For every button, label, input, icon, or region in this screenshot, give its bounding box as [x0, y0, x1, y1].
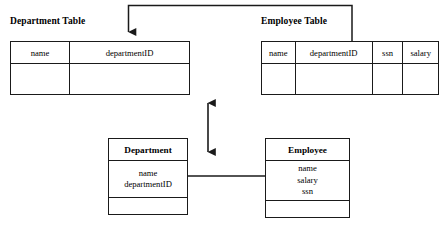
employee-table-cell-departmentid	[296, 64, 373, 94]
department-table-data-row	[11, 64, 189, 94]
department-class-attribute-departmentid: departmentID	[124, 179, 172, 191]
department-table-title: Department Table	[10, 16, 85, 26]
employee-class-attributes: name salary ssn	[266, 161, 349, 201]
employee-table-header-salary: salary	[403, 42, 438, 63]
department-table-header-departmentid: departmentID	[70, 42, 189, 63]
connector-layer	[0, 0, 448, 227]
department-class-attributes: name departmentID	[109, 161, 187, 198]
department-table-cell-name	[11, 64, 70, 94]
employee-table-cell-ssn	[373, 64, 404, 94]
employee-class-operations	[266, 201, 349, 217]
employee-table-cell-name	[262, 64, 296, 94]
employee-table-header-ssn: ssn	[373, 42, 404, 63]
employee-class-attribute-name: name	[298, 163, 317, 175]
employee-table-data-row	[262, 64, 438, 94]
department-class-box: Department name departmentID	[108, 138, 188, 215]
department-table: name departmentID	[10, 41, 190, 95]
department-table-header-row: name departmentID	[11, 42, 189, 64]
department-table-header-name: name	[11, 42, 70, 63]
employee-table: name departmentID ssn salary	[261, 41, 439, 95]
employee-class-name: Employee	[266, 139, 349, 161]
employee-class-box: Employee name salary ssn	[265, 138, 350, 218]
department-class-name: Department	[109, 139, 187, 161]
employee-class-attribute-ssn: ssn	[302, 186, 313, 198]
department-table-cell-departmentid	[70, 64, 189, 94]
employee-table-header-row: name departmentID ssn salary	[262, 42, 438, 64]
employee-table-title: Employee Table	[261, 16, 327, 26]
department-class-operations	[109, 198, 187, 214]
employee-class-attribute-salary: salary	[297, 175, 318, 187]
employee-table-cell-salary	[403, 64, 438, 94]
employee-table-header-departmentid: departmentID	[296, 42, 373, 63]
department-class-attribute-name: name	[139, 168, 158, 180]
employee-table-header-name: name	[262, 42, 296, 63]
uml-table-mapping-diagram: Department Table name departmentID Emplo…	[0, 0, 448, 227]
